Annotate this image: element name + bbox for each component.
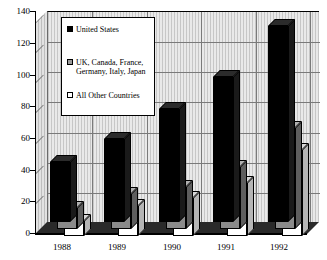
bar-1991-united-states <box>213 77 233 222</box>
left-depth-wall <box>35 11 47 234</box>
y-tick-mark-80 <box>30 106 35 107</box>
legend-item-g7: UK, Canada, France, Germany, Italy, Japa… <box>67 58 150 77</box>
y-axis-labels: 140 120 100 80 60 40 20 0 <box>0 0 30 260</box>
bar-1992-united-states <box>268 26 288 222</box>
bar-face <box>50 162 70 222</box>
y-tick-60: 60 <box>4 134 30 143</box>
y-tick-100: 100 <box>4 71 30 80</box>
bar-side <box>288 19 295 222</box>
bar-face <box>268 26 288 222</box>
bar-side <box>193 191 200 236</box>
chart-legend: United States UK, Canada, France, German… <box>61 17 155 116</box>
y-axis-line <box>35 11 36 234</box>
legend-swatch-icon <box>67 26 73 32</box>
y-tick-mark-120 <box>30 43 35 44</box>
gridline-wall <box>35 75 44 84</box>
y-tick-mark-0 <box>30 233 35 234</box>
legend-item-all-other: All Other Countries <box>67 91 150 101</box>
y-tick-mark-60 <box>30 138 35 139</box>
bar-side <box>247 176 254 236</box>
bar-side <box>186 180 193 229</box>
bar-side <box>70 155 77 222</box>
y-tick-140: 140 <box>4 7 30 16</box>
y-tick-mark-20 <box>30 201 35 202</box>
x-tick-1988: 1988 <box>42 242 82 252</box>
gridline-wall <box>35 135 44 144</box>
y-tick-mark-140 <box>30 11 35 12</box>
bar-face <box>159 109 179 222</box>
gridline-wall <box>35 45 44 54</box>
bar-1989-united-states <box>104 139 124 222</box>
legend-label: UK, Canada, France, Germany, Italy, Japa… <box>76 58 146 77</box>
y-tick-mark-40 <box>30 170 35 171</box>
bar-face <box>213 77 233 222</box>
x-tick-1991: 1991 <box>206 242 246 252</box>
legend-label: All Other Countries <box>76 91 140 101</box>
legend-swatch-icon <box>67 92 73 98</box>
x-tick-1990: 1990 <box>152 242 192 252</box>
y-tick-20: 20 <box>4 197 30 206</box>
bar-face <box>104 139 124 222</box>
bar-side <box>295 121 302 229</box>
gridline-wall <box>35 105 44 114</box>
bar-side <box>302 143 309 236</box>
gridline-wall <box>35 196 44 205</box>
bar-side <box>179 102 186 222</box>
gridline-wall <box>35 165 44 174</box>
bar-side <box>124 132 131 222</box>
legend-swatch-icon <box>67 59 73 65</box>
bar-chart: 140 120 100 80 60 40 20 0 1988 1989 1990… <box>0 0 327 260</box>
x-tick-1992: 1992 <box>259 242 299 252</box>
x-tick-1989: 1989 <box>97 242 137 252</box>
bar-side <box>233 70 240 222</box>
y-tick-mark-100 <box>30 75 35 76</box>
bar-side <box>240 160 247 229</box>
y-tick-80: 80 <box>4 102 30 111</box>
legend-item-united-states: United States <box>67 25 150 35</box>
y-tick-0: 0 <box>4 229 30 238</box>
bar-1988-united-states <box>50 162 70 222</box>
bar-1990-united-states <box>159 109 179 222</box>
y-tick-40: 40 <box>4 166 30 175</box>
y-tick-120: 120 <box>4 39 30 48</box>
gridline-wall <box>35 15 44 24</box>
legend-label: United States <box>76 25 119 35</box>
